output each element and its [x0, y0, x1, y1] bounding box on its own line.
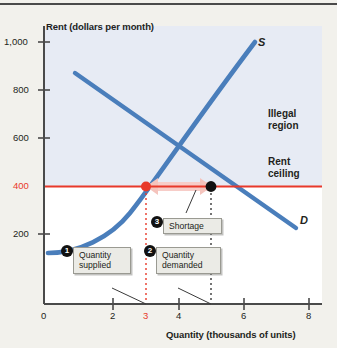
callout-quantity-supplied-badge: 1 [61, 245, 73, 257]
y-tick-600: 600 [13, 133, 29, 143]
x-tick-2: 2 [110, 311, 115, 321]
x-tick-0: 0 [41, 311, 46, 321]
demand-curve-label: D [300, 215, 308, 227]
quantity-demanded-point [206, 181, 217, 192]
quantity-supplied-point [141, 182, 151, 192]
y-tick-800: 800 [13, 85, 29, 95]
callout-shortage-badge: 3 [151, 216, 163, 228]
illegal-region-label: Illegal region [268, 108, 299, 131]
rent-ceiling-label: Rent ceiling [268, 156, 300, 179]
x-tick-4: 4 [176, 311, 181, 321]
x-axis-title: Quantity (thousands of units) [166, 330, 296, 340]
figure-container: Rent (dollars per month) Quantity (thous… [0, 0, 337, 348]
y-axis-title: Rent (dollars per month) [46, 22, 154, 32]
y-tick-200: 200 [13, 229, 29, 239]
callout-quantity-demanded: Quantity demanded [156, 247, 221, 274]
x-tick-8: 8 [306, 311, 311, 321]
callout-quantity-supplied: Quantity supplied [73, 247, 131, 274]
x-tick-3: 3 [143, 311, 148, 321]
y-tick-1000: 1,000 [4, 37, 28, 47]
callout-quantity-demanded-badge: 2 [144, 245, 156, 257]
x-tick-6: 6 [241, 311, 246, 321]
callout-shortage: Shortage [163, 218, 222, 234]
supply-curve-label: S [258, 37, 265, 49]
y-tick-400: 400 [13, 181, 29, 191]
